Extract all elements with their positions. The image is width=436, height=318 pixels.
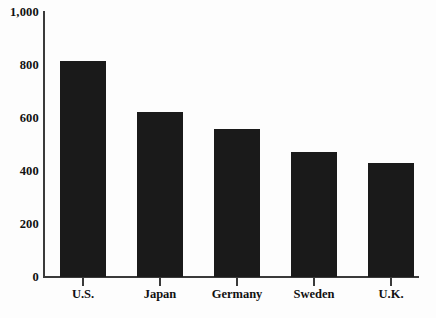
bar-chart: 1,000 800 600 400 200 0 U.S. Japan Germa…	[0, 0, 436, 318]
y-tick-label-0: 0	[0, 271, 39, 284]
bar-uk	[368, 163, 414, 277]
x-tick-japan	[159, 278, 161, 286]
y-tick-label-800: 800	[0, 59, 39, 72]
x-tick-uk	[390, 278, 392, 286]
y-tick-label-1000: 1,000	[0, 6, 39, 19]
bar-japan	[137, 112, 183, 277]
x-tick-germany	[236, 278, 238, 286]
bar-germany	[214, 129, 260, 277]
bar-us	[60, 61, 106, 277]
bar-sweden	[291, 152, 337, 277]
x-tick-sweden	[313, 278, 315, 286]
y-tick-label-200: 200	[0, 218, 39, 231]
plot-area	[44, 12, 418, 277]
x-label-us: U.S.	[72, 288, 94, 301]
x-tick-us	[82, 278, 84, 286]
x-label-uk: U.K.	[379, 288, 404, 301]
y-axis-labels: 1,000 800 600 400 200 0	[0, 0, 39, 318]
x-label-sweden: Sweden	[294, 288, 335, 301]
x-label-japan: Japan	[144, 288, 177, 301]
y-tick-label-400: 400	[0, 165, 39, 178]
y-tick-label-600: 600	[0, 112, 39, 125]
x-label-germany: Germany	[212, 288, 263, 301]
